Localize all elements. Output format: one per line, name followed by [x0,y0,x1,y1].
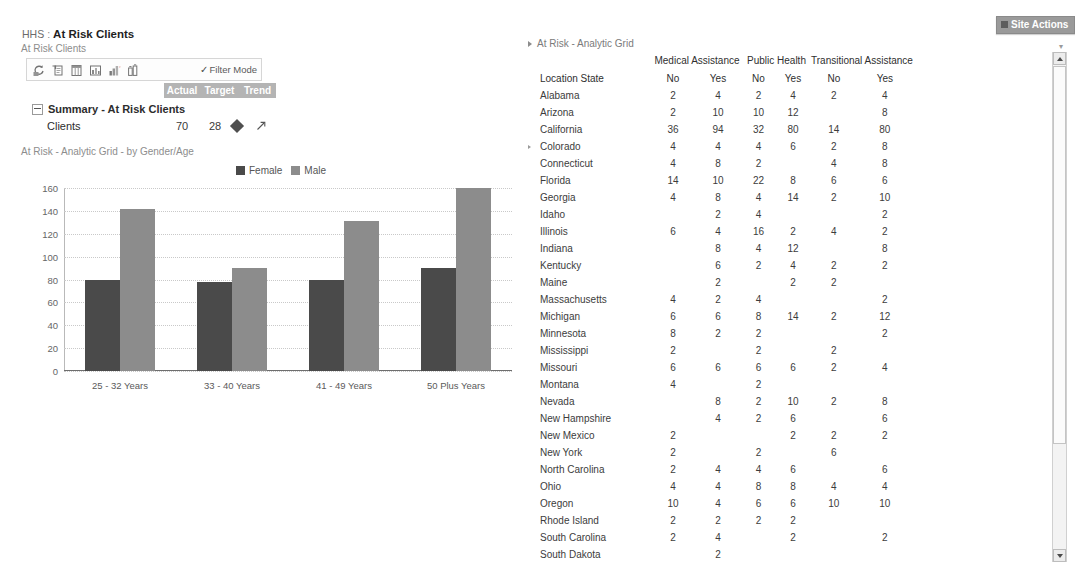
cell-ph-yes: 6 [775,138,811,155]
table-row[interactable]: Michigan66814212 [538,308,913,325]
y-axis-tick-label: 140 [42,205,58,216]
table-row[interactable]: Maine222 [538,274,913,291]
table-row[interactable]: New Hampshire4266 [538,410,913,427]
table-row[interactable]: New York226 [538,444,913,461]
cell-ph-no: 32 [742,121,775,138]
y-axis-tick-label: 80 [47,274,58,285]
table-row[interactable]: Ohio448844 [538,478,913,495]
scorecard-group-row[interactable]: Summary - At Risk Clients [32,103,185,115]
cell-ta-no [811,512,857,529]
table-row[interactable]: North Carolina24466 [538,461,913,478]
table-row[interactable]: Oregon104661010 [538,495,913,512]
cell-ta-no: 2 [811,393,857,410]
cell-ph-yes [775,444,811,461]
table-row[interactable]: Colorado444628 [538,138,913,155]
cell-ma-yes: 4 [694,87,742,104]
chart-bar-male[interactable] [120,209,155,371]
cell-ph-yes: 6 [775,461,811,478]
filter-mode-button[interactable]: ✓ Filter Mode [200,64,257,75]
table-row[interactable]: Connecticut48248 [538,155,913,172]
table-row[interactable]: Massachusetts4242 [538,291,913,308]
cell-ph-no: 2 [742,257,775,274]
cell-ph-yes [775,155,811,172]
table-row[interactable]: Montana42 [538,376,913,393]
table-row[interactable]: California369432801480 [538,121,913,138]
table-row[interactable]: Rhode Island2222 [538,512,913,529]
table-row[interactable]: Nevada821028 [538,393,913,410]
chart-bar-female[interactable] [421,268,456,371]
cell-ta-no: 2 [811,427,857,444]
table-row[interactable]: Illinois6416242 [538,223,913,240]
group-header-public-health: Public Health [742,52,811,70]
chart-bar-female[interactable] [309,280,344,372]
chart-bar-male[interactable] [456,188,491,371]
breadcrumb-root[interactable]: HHS [22,28,44,40]
table-row[interactable]: South Dakota2 [538,546,913,563]
table-row[interactable]: Kentucky62422 [538,257,913,274]
cell-ta-no [811,206,857,223]
scroll-up-button[interactable] [1053,52,1066,65]
page-scrollbar[interactable] [1052,52,1067,562]
column-header-ph-yes[interactable]: Yes [775,70,811,87]
cell-ta-yes: 8 [857,138,913,155]
chart-bar-male[interactable] [344,221,379,371]
chart-icon[interactable] [88,63,103,77]
columns-icon[interactable] [69,63,84,77]
filter-mode-label: Filter Mode [209,64,257,75]
cell-ma-no [652,240,694,257]
cell-ta-no: 2 [811,138,857,155]
details-icon[interactable] [126,63,141,77]
cell-ta-no: 2 [811,308,857,325]
column-header-ta-yes[interactable]: Yes [857,70,913,87]
chart-bar-female[interactable] [197,282,232,371]
cell-ph-no [742,274,775,291]
chart-bar-female[interactable] [85,280,120,372]
scroll-down-button[interactable] [1053,549,1066,562]
table-row[interactable]: Minnesota8222 [538,325,913,342]
table-row[interactable]: Alabama242424 [538,87,913,104]
bar-chart-icon[interactable] [107,63,122,77]
table-row[interactable]: Idaho242 [538,206,913,223]
cell-ma-no: 2 [652,512,694,529]
cell-location-state: South Dakota [538,546,652,563]
cell-location-state: Kentucky [538,257,652,274]
cell-ph-no: 4 [742,189,775,206]
cell-ma-no: 8 [652,325,694,342]
cell-ph-yes [775,376,811,393]
cell-ma-yes: 6 [694,257,742,274]
table-row[interactable]: Mississippi222 [538,342,913,359]
cell-ma-no [652,546,694,563]
column-header-location-state[interactable]: Location State [538,70,652,87]
export-icon[interactable] [50,63,65,77]
collapse-icon[interactable] [32,104,43,115]
table-row[interactable]: Missouri666624 [538,359,913,376]
table-row[interactable]: Florida141022866 [538,172,913,189]
column-header-ma-no[interactable]: No [652,70,694,87]
cell-ph-no: 2 [742,512,775,529]
cell-ma-no: 4 [652,291,694,308]
legend-item-female[interactable]: Female [236,165,282,176]
table-row[interactable]: Georgia48414210 [538,189,913,206]
cell-ta-no: 4 [811,223,857,240]
cell-ta-yes: 6 [857,172,913,189]
chart-bar-male[interactable] [232,268,267,371]
column-header-ph-no[interactable]: No [742,70,775,87]
table-row[interactable]: Arizona21010128 [538,104,913,121]
table-row[interactable]: South Carolina2422 [538,529,913,546]
analytic-grid-header[interactable]: At Risk - Analytic Grid [528,38,634,49]
cell-ma-no: 4 [652,138,694,155]
cell-ta-yes [857,512,913,529]
table-row[interactable]: New Mexico2222 [538,427,913,444]
column-header-ma-yes[interactable]: Yes [694,70,742,87]
expand-icon[interactable] [528,41,532,47]
cell-ta-yes: 8 [857,393,913,410]
legend-item-male[interactable]: Male [291,165,326,176]
cell-ph-yes: 6 [775,359,811,376]
cell-ta-no [811,291,857,308]
scorecard-kpi-row[interactable]: Clients 70 28 [47,120,272,136]
column-header-ta-no[interactable]: No [811,70,857,87]
table-row[interactable]: Indiana84128 [538,240,913,257]
refresh-icon[interactable] [31,63,46,77]
cell-ta-yes: 8 [857,240,913,257]
scrollbar-thumb[interactable] [1053,66,1066,444]
